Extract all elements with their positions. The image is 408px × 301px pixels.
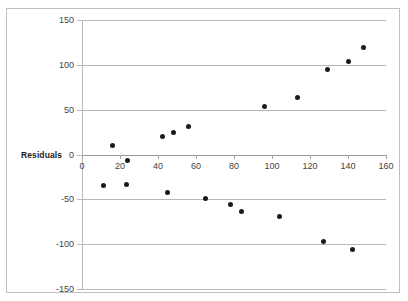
value-axis-tick xyxy=(77,199,82,200)
value-axis-label: 100 xyxy=(36,60,74,69)
data-point xyxy=(277,214,282,219)
data-point xyxy=(239,209,244,214)
data-point xyxy=(203,196,208,201)
data-point xyxy=(101,183,106,188)
data-point xyxy=(350,247,355,252)
data-point xyxy=(325,67,330,72)
value-axis-tick xyxy=(77,244,82,245)
gridline xyxy=(82,20,386,21)
data-point xyxy=(295,95,300,100)
category-axis-tick xyxy=(82,155,83,159)
data-point xyxy=(165,190,170,195)
chart-frame: -150-100-50050100150 0204060801001201401… xyxy=(6,8,400,293)
data-point xyxy=(125,158,130,163)
value-axis-tick xyxy=(77,289,82,290)
data-point xyxy=(321,239,326,244)
value-axis-label: -100 xyxy=(36,240,74,249)
value-axis-tick xyxy=(77,110,82,111)
data-point xyxy=(124,182,129,187)
data-point xyxy=(186,124,191,129)
data-point xyxy=(110,143,115,148)
data-point xyxy=(361,45,366,50)
scatter-plot-screenshot: -150-100-50050100150 0204060801001201401… xyxy=(0,0,408,301)
data-point xyxy=(160,134,165,139)
value-axis-tick xyxy=(77,20,82,21)
data-point xyxy=(228,202,233,207)
value-axis-label: 150 xyxy=(36,16,74,25)
value-axis-label: 50 xyxy=(36,105,74,114)
value-axis-title: Residuals xyxy=(21,150,62,159)
value-axis-label: -150 xyxy=(36,285,74,294)
plot-area xyxy=(88,28,392,297)
value-axis-tick xyxy=(77,65,82,66)
data-point xyxy=(346,59,351,64)
data-point xyxy=(262,104,267,109)
data-point xyxy=(171,130,176,135)
value-axis-label: -50 xyxy=(36,195,74,204)
